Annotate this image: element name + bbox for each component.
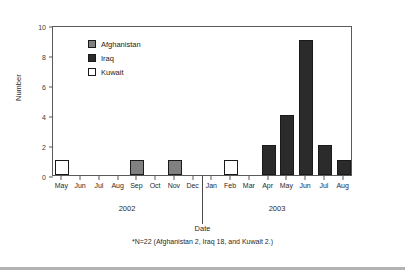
x-axis-tick-mark (323, 176, 324, 180)
figure-canvas: Number 0246810 MayJunJulAugSepOctNovDecJ… (0, 0, 405, 270)
legend-item-label: Kuwait (101, 68, 124, 77)
y-axis-tick-mark (49, 117, 53, 118)
y-axis-tick-label: 2 (42, 144, 46, 151)
bar (262, 145, 276, 175)
y-axis-tick: 10 (38, 24, 53, 31)
legend-swatch-icon (88, 68, 96, 76)
y-axis-tick-mark (49, 147, 53, 148)
x-axis-tick-mark (155, 176, 156, 180)
x-axis-tick-label: Jun (74, 182, 85, 189)
x-axis-tick-label: Dec (186, 182, 198, 189)
x-axis-tick-label: Aug (336, 182, 348, 189)
y-axis-tick: 8 (42, 54, 53, 61)
x-axis-tick-mark (98, 176, 99, 180)
bar (55, 160, 69, 175)
x-axis-tick-label: Sep (130, 182, 142, 189)
x-axis-tick-mark (211, 176, 212, 180)
y-axis-tick-label: 10 (38, 24, 46, 31)
x-axis-tick-label: May (280, 182, 293, 189)
bar (299, 40, 313, 175)
x-axis-tick-mark (267, 176, 268, 180)
x-axis-tick-label: Mar (243, 182, 255, 189)
bar (280, 115, 294, 175)
y-axis-title: Number (14, 74, 23, 101)
y-axis-tick-mark (49, 27, 53, 28)
legend-swatch-icon (88, 40, 96, 48)
legend-swatch-icon (88, 54, 96, 62)
y-axis-tick-label: 8 (42, 54, 46, 61)
x-axis-tick-label: Jun (299, 182, 310, 189)
x-axis-tick-mark (61, 176, 62, 180)
year-divider (202, 176, 203, 224)
x-axis-tick-mark (192, 176, 193, 180)
x-axis-tick-mark (117, 176, 118, 180)
x-axis-tick-mark (305, 176, 306, 180)
x-axis-tick-label: Jul (94, 182, 103, 189)
x-axis-tick-mark (136, 176, 137, 180)
x-axis-tick-label: Aug (111, 182, 123, 189)
y-axis-tick: 4 (42, 114, 53, 121)
x-axis-tick-label: Feb (224, 182, 236, 189)
x-axis-tick-label: Nov (168, 182, 180, 189)
x-axis-tick-mark (248, 176, 249, 180)
year-group-label: 2003 (269, 204, 286, 213)
bar (130, 160, 144, 175)
bar (224, 160, 238, 175)
x-axis-tick-mark (342, 176, 343, 180)
legend-item-afghanistan: Afghanistan (88, 38, 141, 50)
x-axis-tick-mark (286, 176, 287, 180)
y-axis-tick-label: 0 (42, 174, 46, 181)
y-axis-tick-mark (49, 87, 53, 88)
legend-item-kuwait: Kuwait (88, 66, 141, 78)
legend-item-iraq: Iraq (88, 52, 141, 64)
y-axis-tick: 2 (42, 144, 53, 151)
x-axis-tick-label: May (55, 182, 68, 189)
x-axis-tick-label: Jul (319, 182, 328, 189)
y-axis-tick-mark (49, 57, 53, 58)
x-axis-tick-mark (80, 176, 81, 180)
y-axis-tick-label: 6 (42, 84, 46, 91)
x-axis-tick-label: Apr (262, 182, 273, 189)
bar (337, 160, 351, 175)
x-axis-tick-label: Jan (206, 182, 217, 189)
x-axis-title: Date (0, 224, 405, 233)
y-axis-tick-label: 4 (42, 114, 46, 121)
year-group-label: 2002 (119, 204, 136, 213)
x-axis-tick-label: Oct (150, 182, 161, 189)
bar (168, 160, 182, 175)
x-axis-tick-mark (173, 176, 174, 180)
legend-item-label: Afghanistan (101, 40, 141, 49)
x-axis-tick-mark (230, 176, 231, 180)
chart-footnote: *N=22 (Afghanistan 2, Iraq 18, and Kuwai… (0, 238, 405, 245)
bar (318, 145, 332, 175)
legend-item-label: Iraq (101, 54, 114, 63)
y-axis-tick: 6 (42, 84, 53, 91)
chart-legend: AfghanistanIraqKuwait (88, 38, 141, 80)
